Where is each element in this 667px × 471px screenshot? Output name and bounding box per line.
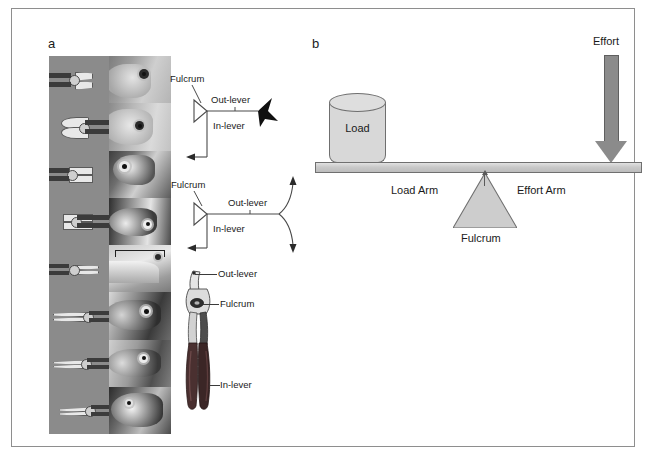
- fish-photo-row-8: [109, 387, 171, 434]
- callout-line-out-lever: [195, 274, 217, 275]
- label-effort: Effort: [593, 35, 619, 47]
- figure-frame: a b: [11, 8, 635, 447]
- label-fulcrum-panel-b: Fulcrum: [461, 232, 501, 244]
- label-fulcrum-bottom: Fulcrum: [171, 179, 205, 190]
- label-out-lever-pliers: Out-lever: [218, 268, 257, 279]
- plier-photo-row-2: [49, 103, 109, 150]
- fish-photo-row-1: [109, 56, 171, 103]
- load-cylinder-top-ellipse: [329, 93, 386, 112]
- plier-photo-row-4: [49, 198, 109, 245]
- label-fulcrum-top: Fulcrum: [170, 73, 204, 84]
- panel-label-b: b: [312, 36, 319, 51]
- callout-line-fulcrum: [203, 304, 219, 305]
- plier-shape: [49, 350, 109, 376]
- plier-shape: [49, 256, 109, 282]
- plier-shape: [49, 161, 109, 187]
- figure-root: a b: [0, 0, 667, 471]
- fulcrum-triangle-panel-b: [453, 173, 517, 228]
- label-in-lever-bottom: In-lever: [213, 223, 245, 234]
- plier-photo-row-7: [49, 340, 109, 387]
- pliers-illustration: Out-lever Fulcrum In-lever: [180, 267, 228, 415]
- fish-photo-row-4: [109, 198, 171, 245]
- lever-beam: [315, 162, 642, 173]
- pliers-illustration-svg: [180, 267, 228, 415]
- fish-photo-row-6: [109, 292, 171, 339]
- panel-label-a: a: [48, 36, 55, 51]
- effort-arrow-shaft: [604, 55, 619, 142]
- fish-photo-row-2: [109, 103, 171, 150]
- fish-photo-row-3: [109, 151, 171, 198]
- fish-photo-row-5: [109, 245, 171, 292]
- label-load-arm: Load Arm: [391, 184, 438, 196]
- lever-diagram-top: Fulcrum Out-lever In-lever: [172, 65, 302, 165]
- plier-shape: [49, 208, 109, 234]
- load-weight-cylinder: Load: [329, 93, 386, 163]
- fulcrum-reaction-arrow: [484, 174, 485, 186]
- plier-photo-row-3: [49, 151, 109, 198]
- plier-shape: [49, 114, 109, 140]
- label-fulcrum-pliers: Fulcrum: [220, 298, 254, 309]
- effort-arrow-head: [595, 141, 627, 163]
- plier-shape: [49, 397, 109, 423]
- fulcrum-triangle-outline: [453, 173, 517, 228]
- plier-photo-row-8: [49, 387, 109, 434]
- plier-photo-row-5: [49, 245, 109, 292]
- plier-photo-row-1: [49, 56, 109, 103]
- label-in-lever-pliers: In-lever: [220, 379, 252, 390]
- callout-line-in-lever: [210, 385, 220, 386]
- plier-photo-row-6: [49, 292, 109, 339]
- lever-diagram-bottom: Fulcrum Out-lever In-lever: [172, 174, 312, 264]
- label-out-lever-top: Out-lever: [211, 94, 250, 105]
- load-cylinder-body: [329, 102, 386, 163]
- label-effort-arm: Effort Arm: [517, 184, 566, 196]
- fish-photo-row-7: [109, 340, 171, 387]
- plier-shape: [49, 303, 109, 329]
- label-load: Load: [329, 122, 386, 134]
- plier-shape: [49, 67, 109, 93]
- label-out-lever-bottom: Out-lever: [228, 197, 267, 208]
- fulcrum-triangle-top: [194, 100, 207, 122]
- photo-montage: [49, 56, 171, 434]
- label-in-lever-top: In-lever: [213, 120, 245, 131]
